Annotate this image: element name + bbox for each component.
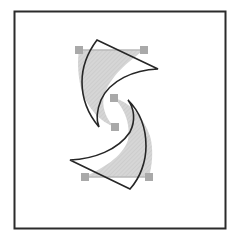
handle-top-left[interactable] <box>75 46 83 54</box>
handle-top-right[interactable] <box>140 46 148 54</box>
handle-bottom-left[interactable] <box>81 173 89 181</box>
handle-middle-upper[interactable] <box>110 94 118 102</box>
handle-bottom-right[interactable] <box>145 173 153 181</box>
transform-diagram <box>0 0 234 237</box>
handle-middle-lower[interactable] <box>111 123 119 131</box>
frame-border <box>15 12 226 229</box>
